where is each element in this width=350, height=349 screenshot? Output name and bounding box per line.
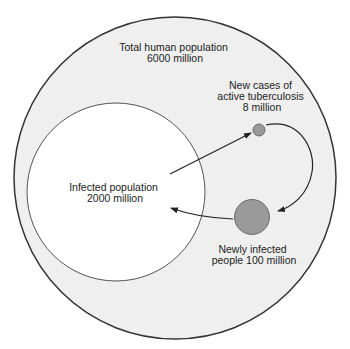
newly-infected-circle (235, 200, 270, 235)
newly-infected-label: Newly infected people 100 million (212, 243, 297, 266)
tb-population-diagram: Total human population 6000 million Infe… (0, 0, 350, 349)
new-tb-cases-circle (253, 124, 265, 136)
